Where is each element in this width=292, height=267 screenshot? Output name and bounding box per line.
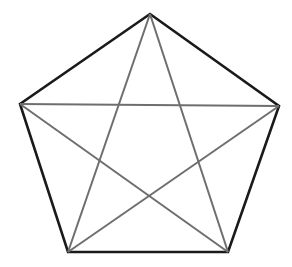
pentagon-diagram [0,0,292,267]
diagonal-right-bottom_left [68,106,279,252]
diagonal-top-bottom_right [150,14,228,252]
diagonal-top-bottom_left [68,14,150,252]
diagonal-left-bottom_right [20,104,228,252]
diagonal-left-right [20,104,279,106]
